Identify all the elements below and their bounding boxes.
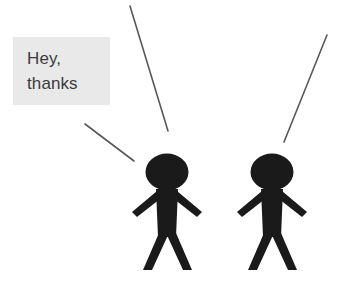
pointer-line-center <box>130 6 168 131</box>
torso-shape <box>156 189 178 237</box>
head-icon <box>146 154 189 191</box>
callout-line-1: Hey, <box>27 46 110 71</box>
arm-left-shape <box>237 191 265 217</box>
stick-figure-left <box>132 154 202 271</box>
arm-left-shape <box>132 191 160 217</box>
illustration-scene: Hey, thanks <box>0 0 354 283</box>
callout-line-2: thanks <box>27 71 110 96</box>
torso-shape <box>261 189 283 237</box>
pointer-line-right <box>284 35 327 142</box>
leader-line-group <box>85 6 327 161</box>
arm-right-shape <box>174 191 202 217</box>
callout-leader-line <box>85 124 134 161</box>
arm-right-shape <box>279 191 307 217</box>
leg-right-shape <box>166 233 192 270</box>
speech-callout: Hey, thanks <box>13 37 110 105</box>
leg-left-shape <box>248 233 274 270</box>
leg-right-shape <box>271 233 297 270</box>
leg-left-shape <box>143 233 169 270</box>
stick-figure-right <box>237 154 307 271</box>
head-icon <box>251 154 294 191</box>
